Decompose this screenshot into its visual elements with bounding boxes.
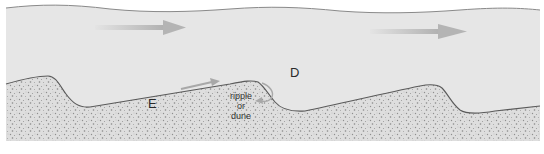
- bedform-label-line1: ripple: [221, 91, 261, 101]
- diagram-canvas: [0, 0, 544, 154]
- bedform-label-line2: or: [221, 101, 261, 111]
- ripple-dune-diagram: E D ripple or dune: [0, 0, 544, 154]
- bedform-label: ripple or dune: [221, 91, 261, 121]
- erosion-label: E: [148, 97, 157, 110]
- bedform-label-line3: dune: [221, 111, 261, 121]
- deposition-label: D: [290, 66, 299, 79]
